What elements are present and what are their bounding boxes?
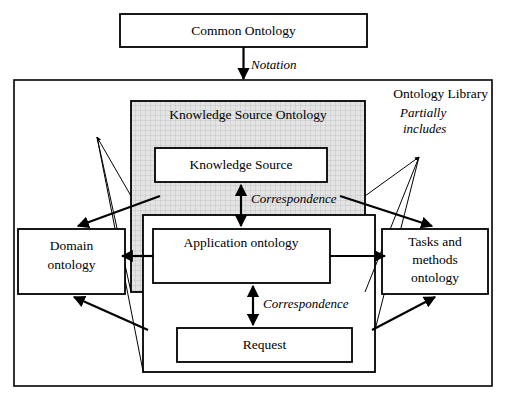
request-to-tasks-line: [372, 297, 435, 330]
knowledge-source-box: Knowledge Source: [155, 148, 327, 182]
common-ontology-box: Common Ontology: [120, 14, 367, 47]
request-to-tasks-arrow: [372, 297, 435, 330]
tasks-methods-label-line1: Tasks and: [408, 234, 462, 249]
request-box: Request: [177, 328, 352, 362]
application-ontology-label: Application ontology: [183, 235, 298, 250]
notation-arrow: Notation: [244, 47, 297, 79]
application-ontology-box: Application ontology: [153, 229, 330, 283]
notation-label: Notation: [250, 57, 297, 72]
partially-includes-label-line1: Partially: [399, 105, 446, 120]
diagram-canvas: Common Ontology Notation Ontology Librar…: [0, 0, 505, 398]
request-to-domain-arrow: [74, 297, 148, 330]
correspondence-upper-label: Correspondence: [251, 191, 337, 206]
domain-ontology-label-line2: ontology: [47, 257, 95, 272]
knowledge-source-label: Knowledge Source: [189, 157, 292, 172]
ontology-library-label: Ontology Library: [393, 86, 488, 101]
correspondence-lower-label: Correspondence: [263, 296, 349, 311]
tasks-methods-ontology-box: Tasks and methods ontology: [382, 229, 488, 294]
partially-includes-left-line-1: [97, 137, 131, 196]
knowledge-source-ontology-label: Knowledge Source Ontology: [169, 107, 327, 122]
domain-ontology-box: Domain ontology: [18, 229, 125, 294]
request-label: Request: [243, 337, 287, 352]
domain-ontology-label-line1: Domain: [50, 238, 94, 253]
request-to-domain-line: [74, 297, 148, 330]
ontology-library-diagram: Common Ontology Notation Ontology Librar…: [0, 0, 505, 398]
common-ontology-label: Common Ontology: [191, 23, 296, 38]
partially-includes-label-line2: includes: [403, 121, 446, 136]
tasks-methods-label-line2: methods: [412, 252, 458, 267]
tasks-methods-label-line3: ontology: [411, 270, 459, 285]
